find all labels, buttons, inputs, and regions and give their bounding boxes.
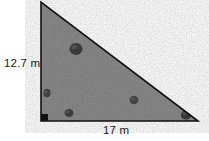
right-angle-marker — [41, 114, 48, 121]
pebble — [43, 89, 50, 97]
base-dimension-label: 17 m — [103, 124, 129, 136]
pebble-highlight — [44, 90, 47, 93]
pebble — [70, 43, 83, 55]
figure-container: 12.7 m 17 m — [0, 0, 209, 141]
pebble — [130, 96, 139, 104]
pebble-highlight — [66, 110, 70, 113]
height-dimension-label: 12.7 m — [4, 57, 40, 69]
triangle-figure — [0, 0, 209, 141]
pebble-highlight — [131, 97, 135, 100]
pebble-highlight — [71, 45, 76, 50]
pebble — [65, 109, 74, 117]
